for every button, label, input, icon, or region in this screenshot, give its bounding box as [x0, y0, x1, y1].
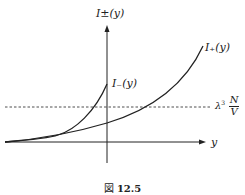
figure-caption: 図 12.5	[0, 180, 245, 195]
y-axis-arrow-icon	[105, 25, 110, 32]
x-axis-label: y	[211, 137, 217, 148]
y-axis-label: I±(y)	[96, 8, 124, 19]
curve-i-plus	[5, 46, 203, 142]
threshold-denominator: V	[229, 107, 240, 118]
threshold-fraction: N V	[229, 95, 240, 117]
plot-canvas	[0, 0, 245, 195]
curve-i-minus	[5, 84, 107, 142]
threshold-label: λ3 N V	[215, 95, 239, 117]
curve-i-minus-label: I₋(y)	[112, 78, 137, 89]
curve-i-plus-label: I₊(y)	[205, 42, 230, 53]
threshold-numerator: N	[229, 95, 240, 107]
threshold-lambda-sup: 3	[221, 99, 225, 106]
figure-12-5: I±(y) y I₊(y) I₋(y) λ3 N V 図 12.5	[0, 0, 245, 195]
caption-prefix: 図	[104, 183, 114, 194]
x-axis-arrow-icon	[199, 140, 206, 145]
caption-number: 12.5	[117, 183, 141, 194]
